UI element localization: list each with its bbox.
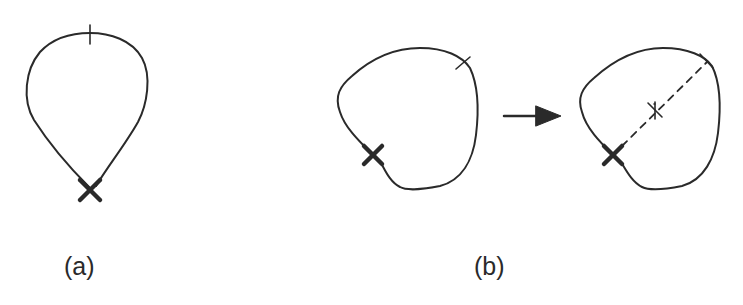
x-mark-icon bbox=[80, 180, 100, 200]
panel-label-a: (a) bbox=[64, 254, 95, 279]
x-mark-icon bbox=[364, 146, 382, 164]
upper-right-tick-mark bbox=[456, 57, 470, 69]
panel-label-b: (b) bbox=[474, 254, 505, 279]
dashed-chord bbox=[622, 62, 707, 146]
right-arrow-icon bbox=[504, 106, 561, 126]
panel-b-left-diagram bbox=[338, 48, 478, 189]
panel-a-diagram bbox=[27, 25, 148, 200]
x-mark-icon bbox=[604, 146, 622, 164]
figure: (a) (b) bbox=[0, 0, 743, 305]
teardrop-loop bbox=[27, 33, 148, 188]
diagram-canvas bbox=[0, 0, 743, 305]
upper-right-tick-mark bbox=[700, 54, 713, 68]
panel-b-right-diagram bbox=[580, 48, 719, 189]
